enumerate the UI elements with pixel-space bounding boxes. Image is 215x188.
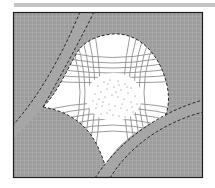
mesh-diagram bbox=[0, 0, 215, 188]
stippled-core bbox=[86, 73, 142, 121]
